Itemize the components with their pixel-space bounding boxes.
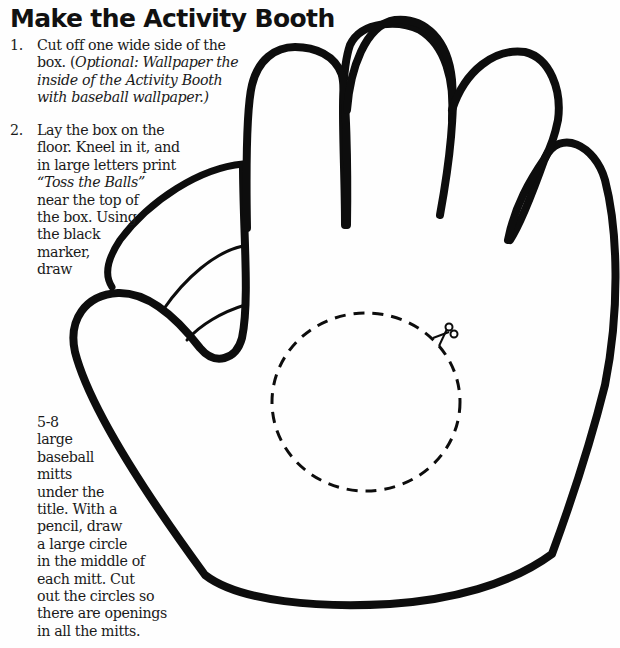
step-number: 2. [10, 122, 23, 139]
step-line: title. With a [37, 501, 197, 518]
step-line: mitts [37, 466, 197, 483]
step-line: the box. Using [37, 209, 252, 226]
step-line: pencil, draw [37, 518, 197, 535]
dashed-cut-circle [272, 313, 460, 491]
step-1: 1. Cut off one wide side of the box. (Op… [37, 37, 277, 107]
activity-page: Make the Activity Booth 1. Cut off one w… [0, 0, 620, 648]
step-line: out the circles so [37, 588, 197, 605]
step-2-continued: 5-8 large baseball mitts under the title… [37, 414, 197, 640]
scissors-icon [433, 324, 458, 347]
page-title: Make the Activity Booth [10, 4, 335, 33]
step-line: in all the mitts. [37, 623, 197, 640]
step-line: with baseball wallpaper.) [37, 89, 277, 106]
step-line: a large circle [37, 536, 197, 553]
step-line: near the top of [37, 192, 252, 209]
mitt-lacing-line [187, 305, 245, 340]
step-line: Cut off one wide side of the [37, 37, 277, 54]
step-line: in large letters print [37, 157, 252, 174]
step-line: under the [37, 484, 197, 501]
step-line: large [37, 431, 197, 448]
step-line: in the middle of [37, 553, 197, 570]
step-line: 5-8 [37, 414, 197, 431]
step-line: draw [37, 261, 252, 278]
step-line: Lay the box on the [37, 122, 252, 139]
step-line: baseball [37, 449, 197, 466]
step-line: marker, [37, 244, 252, 261]
step-line: the black [37, 226, 252, 243]
mitt-finger-3 [452, 52, 559, 158]
step-line: there are openings [37, 605, 197, 622]
step-number: 1. [10, 37, 23, 54]
step-line-italic: “Toss the Balls” [37, 174, 252, 191]
step-2: 2. Lay the box on the floor. Kneel in it… [37, 122, 252, 279]
step-line: box. (Optional: Wallpaper the [37, 54, 277, 71]
step-line: each mitt. Cut [37, 571, 197, 588]
step-line: inside of the Activity Booth [37, 72, 277, 89]
step-line: floor. Kneel in it, and [37, 139, 252, 156]
